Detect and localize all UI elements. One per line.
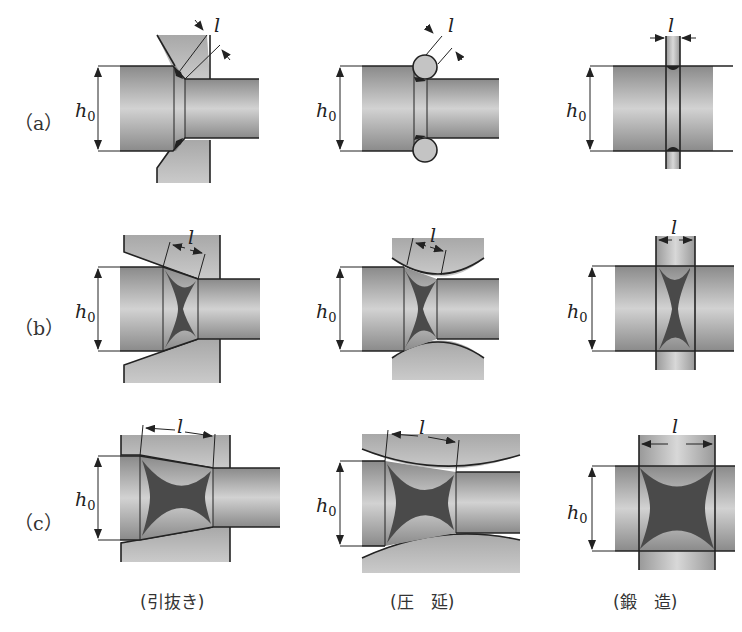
row-label-c: （c） bbox=[14, 512, 63, 534]
forging-b-anvils bbox=[592, 236, 734, 370]
length-label-c3: l bbox=[672, 415, 678, 437]
caption-forging: (鍛 造) bbox=[613, 592, 677, 612]
height-label-c3: h0 bbox=[567, 501, 588, 526]
length-label-a3: l bbox=[668, 14, 674, 36]
height-label-b3: h0 bbox=[567, 300, 588, 325]
height-label-c1: h0 bbox=[75, 488, 96, 513]
height-label-b2: h0 bbox=[316, 300, 337, 325]
caption-drawing: (引抜き) bbox=[140, 592, 204, 612]
length-label-b2: l bbox=[430, 224, 436, 246]
forging-c-anvils bbox=[592, 435, 735, 570]
caption-rolling: (圧 延) bbox=[390, 592, 454, 612]
forging-a-anvils bbox=[590, 36, 733, 169]
row-label-b: （b） bbox=[14, 317, 64, 339]
row-label-a: （a） bbox=[14, 112, 63, 134]
height-label-a3: h0 bbox=[566, 99, 587, 124]
length-label-b1: l bbox=[188, 226, 194, 248]
rolling-c-rolls bbox=[340, 430, 520, 573]
drawing-c-die bbox=[98, 425, 280, 562]
length-label-a2: l bbox=[448, 14, 454, 36]
deformation-zone-diagram: （a） （b） （c） l h0 bbox=[0, 0, 742, 632]
rolling-a-rolls bbox=[340, 26, 499, 162]
drawing-a-die bbox=[98, 20, 259, 183]
height-label-b1: h0 bbox=[75, 300, 96, 325]
length-label-a1: l bbox=[214, 14, 220, 36]
drawing-b-die bbox=[98, 235, 260, 383]
length-label-c1: l bbox=[177, 415, 183, 437]
rolling-b-rolls bbox=[340, 238, 499, 380]
height-label-c2: h0 bbox=[316, 494, 337, 519]
length-label-b3: l bbox=[671, 216, 677, 238]
height-label-a2: h0 bbox=[316, 99, 337, 124]
height-label-a1: h0 bbox=[75, 99, 96, 124]
length-label-c2: l bbox=[419, 416, 425, 438]
